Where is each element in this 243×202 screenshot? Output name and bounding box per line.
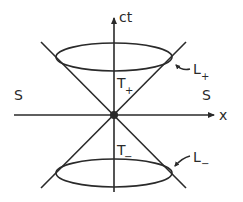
origin-event-dot xyxy=(110,111,118,119)
upper-cone-subscript: + xyxy=(201,71,209,82)
lower-cone-main: L xyxy=(193,149,201,165)
ct-axis-label: ct xyxy=(119,9,133,25)
region-label-right: S xyxy=(202,87,211,103)
region-label-left: S xyxy=(14,87,23,103)
x-axis-label: x xyxy=(219,107,227,123)
upper-cone-pointer-arrow xyxy=(176,65,190,70)
lower-cone-label: L xyxy=(193,149,201,165)
lower-cone-pointer-arrow xyxy=(175,156,190,166)
lower-cone-subscript: − xyxy=(201,158,209,169)
upper-cone-main: L xyxy=(193,61,201,77)
upper-cone-label: L xyxy=(193,61,201,77)
future-region-subscript: + xyxy=(125,85,133,96)
past-region-subscript: − xyxy=(124,151,132,162)
light-cone-diagram: ct x S S T + T − L + L − xyxy=(0,0,243,202)
